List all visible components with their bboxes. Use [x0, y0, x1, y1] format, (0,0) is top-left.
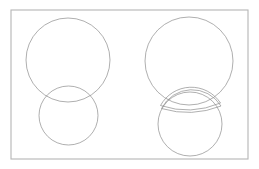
circle-intersection-diagram: [0, 0, 259, 169]
figure-root: [0, 0, 259, 169]
canvas-background: [0, 0, 259, 169]
